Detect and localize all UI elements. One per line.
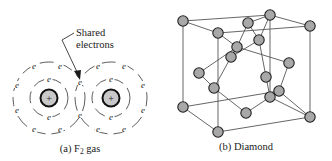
plus-icon: +	[108, 93, 114, 104]
carbon-atom	[305, 21, 315, 31]
shared-annotation-line1: Shared	[76, 27, 106, 38]
carbon-atom	[265, 10, 275, 20]
carbon-atom	[254, 35, 264, 45]
carbon-atom	[261, 72, 271, 82]
electron: e	[96, 61, 100, 71]
carbon-atom	[213, 28, 223, 38]
carbon-atom	[243, 18, 253, 28]
carbon-atom	[178, 102, 188, 112]
carbon-atom	[241, 108, 251, 118]
bond	[270, 15, 310, 26]
electron: e	[58, 61, 62, 71]
carbon-atom	[194, 68, 204, 78]
electron: e	[96, 124, 100, 134]
diagram-canvas: ++eeeeeeeeeeeeeeeeee Shared electrons (a…	[0, 0, 332, 161]
caption-b: (b) Diamond	[219, 141, 274, 153]
carbon-atom	[209, 83, 219, 93]
electron: e	[32, 124, 36, 134]
electron: e	[78, 110, 82, 120]
electron: e	[141, 105, 145, 115]
electron: e	[15, 80, 19, 90]
carbon-atom	[305, 112, 315, 122]
electron: e	[15, 105, 19, 115]
electron: e	[32, 61, 36, 71]
electron: e	[109, 112, 113, 122]
shared-annotation-line2: electrons	[76, 39, 114, 50]
electron: e	[109, 74, 113, 84]
plus-icon: +	[46, 93, 52, 104]
electron: e	[122, 61, 126, 71]
carbon-atom	[284, 58, 294, 68]
electron: e	[122, 124, 126, 134]
electron: e	[47, 112, 51, 122]
carbon-atom	[265, 92, 275, 102]
bond	[218, 117, 310, 132]
carbon-atom	[178, 16, 188, 26]
carbon-atom	[226, 52, 236, 62]
bond	[214, 88, 246, 113]
carbon-atom	[232, 42, 242, 52]
electron: e	[141, 80, 145, 90]
electron: e	[58, 124, 62, 134]
bond	[183, 91, 279, 107]
electron: e	[47, 74, 51, 84]
diamond-figure	[178, 10, 315, 137]
carbon-atom	[274, 86, 284, 96]
bond	[183, 107, 218, 132]
caption-a: (a) F2 gas	[60, 143, 101, 156]
carbon-atom	[213, 127, 223, 137]
